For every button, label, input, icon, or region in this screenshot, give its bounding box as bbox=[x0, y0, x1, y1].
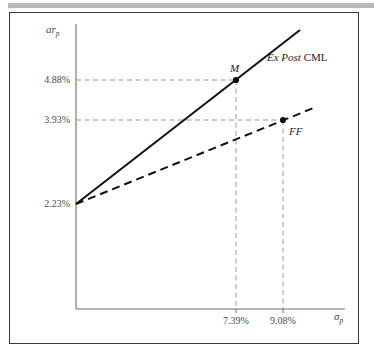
marker-label-m: M bbox=[230, 63, 239, 74]
y-tick-label-223: 2.23% bbox=[14, 199, 70, 209]
marker-label-ff: FF bbox=[289, 126, 302, 137]
series-annotation-ex-post-cml: Ex Post CML bbox=[267, 52, 328, 63]
plot-area: arp σp 4.88% 3.93% 2.23% 7.39% 9.08% M F… bbox=[0, 0, 374, 351]
series-line-ff bbox=[76, 107, 316, 204]
x-tick-label-739: 7.39% bbox=[223, 316, 249, 326]
y-axis-label: arp bbox=[46, 24, 60, 38]
y-tick-label-488: 4.88% bbox=[14, 75, 70, 85]
series-annotation-roman-text: CML bbox=[304, 51, 328, 63]
x-tick-label-908: 9.08% bbox=[270, 316, 296, 326]
marker-point-m bbox=[233, 77, 239, 83]
marker-point-ff bbox=[280, 117, 286, 123]
y-tick-label-393: 3.93% bbox=[14, 115, 70, 125]
x-axis-label: σp bbox=[334, 311, 343, 325]
series-annotation-italic: Ex Post bbox=[267, 51, 301, 63]
figure-root: arp σp 4.88% 3.93% 2.23% 7.39% 9.08% M F… bbox=[0, 0, 374, 351]
